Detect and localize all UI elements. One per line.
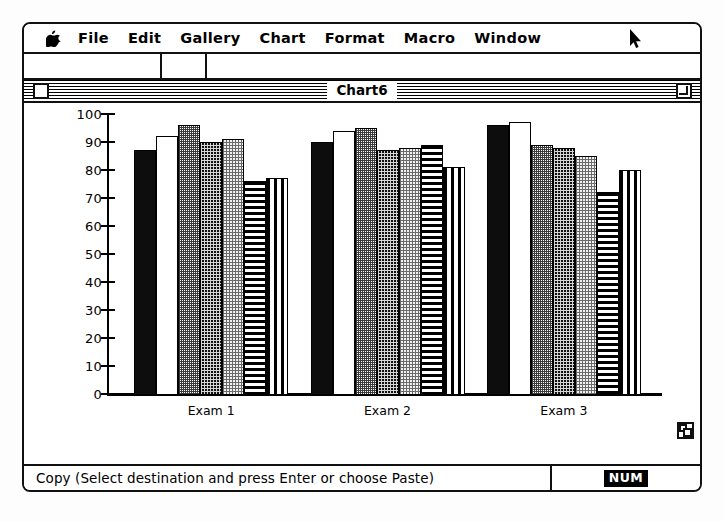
menu-item-edit[interactable]: Edit xyxy=(128,30,161,46)
y-axis-tick-label: 60 xyxy=(46,219,102,234)
x-axis-category-labels: Exam 1Exam 2Exam 3 xyxy=(109,403,662,425)
bar-group xyxy=(311,114,465,394)
y-axis-tick-label: 30 xyxy=(46,303,102,318)
bar[interactable] xyxy=(399,148,421,394)
toolbar-cell-2[interactable] xyxy=(162,54,207,78)
toolbar-cell-3[interactable] xyxy=(207,54,700,78)
apple-logo-icon[interactable] xyxy=(46,30,61,47)
bar[interactable] xyxy=(178,125,200,394)
bar[interactable] xyxy=(222,139,244,394)
bar[interactable] xyxy=(355,128,377,394)
status-right-panel: NUM xyxy=(552,466,700,490)
bar[interactable] xyxy=(487,125,509,394)
x-axis-category-label: Exam 1 xyxy=(188,403,235,418)
bar-group xyxy=(487,114,641,394)
y-axis-tick-label: 10 xyxy=(46,359,102,374)
menu-item-file[interactable]: File xyxy=(78,30,109,46)
plot-wrapper: 0102030405060708090100 Exam 1Exam 2Exam … xyxy=(24,103,700,443)
menu-item-format[interactable]: Format xyxy=(325,30,385,46)
bar[interactable] xyxy=(244,181,266,394)
chart-canvas: 0102030405060708090100 Exam 1Exam 2Exam … xyxy=(24,103,700,443)
menu-item-gallery[interactable]: Gallery xyxy=(180,30,240,46)
bar[interactable] xyxy=(619,170,641,394)
y-axis-tick-label: 90 xyxy=(46,135,102,150)
bar[interactable] xyxy=(509,122,531,394)
mouse-pointer-icon xyxy=(629,29,642,49)
toolbar-cell-1[interactable] xyxy=(24,54,162,78)
y-axis-tick-label: 100 xyxy=(46,107,102,122)
zoom-box-icon[interactable] xyxy=(676,83,692,99)
y-axis-tick-label: 80 xyxy=(46,163,102,178)
bar[interactable] xyxy=(156,136,178,394)
y-axis-tick-label: 50 xyxy=(46,247,102,262)
bar[interactable] xyxy=(421,145,443,394)
status-message: Copy (Select destination and press Enter… xyxy=(24,470,550,486)
y-axis-labels: 0102030405060708090100 xyxy=(46,103,102,384)
bar[interactable] xyxy=(443,167,465,394)
window-title: Chart6 xyxy=(327,82,396,99)
y-axis-tick-label: 0 xyxy=(46,387,102,402)
menu-item-macro[interactable]: Macro xyxy=(404,30,455,46)
x-axis-category-label: Exam 3 xyxy=(540,403,587,418)
bar[interactable] xyxy=(575,156,597,394)
y-axis-tick-label: 70 xyxy=(46,191,102,206)
bar[interactable] xyxy=(311,142,333,394)
grow-box-icon[interactable] xyxy=(677,422,694,439)
bar[interactable] xyxy=(134,150,156,394)
menu-item-window[interactable]: Window xyxy=(474,30,541,46)
bar[interactable] xyxy=(597,192,619,394)
menu-bar: File Edit Gallery Chart Format Macro Win… xyxy=(24,24,700,54)
bar[interactable] xyxy=(553,148,575,394)
bar[interactable] xyxy=(200,142,222,394)
bar[interactable] xyxy=(333,131,355,394)
y-axis-tick-label: 40 xyxy=(46,275,102,290)
toolbar-strip xyxy=(24,54,700,80)
bar[interactable] xyxy=(531,145,553,394)
status-bar: Copy (Select destination and press Enter… xyxy=(24,464,700,490)
menu-item-chart[interactable]: Chart xyxy=(259,30,305,46)
y-axis-tick-label: 20 xyxy=(46,331,102,346)
x-axis-category-label: Exam 2 xyxy=(364,403,411,418)
bars-plot-area xyxy=(109,114,662,394)
bar-group xyxy=(134,114,288,394)
bar[interactable] xyxy=(377,150,399,394)
close-box-icon[interactable] xyxy=(33,83,49,99)
screen: File Edit Gallery Chart Format Macro Win… xyxy=(0,0,724,521)
bar[interactable] xyxy=(266,178,288,394)
window-title-bar[interactable]: Chart6 xyxy=(24,80,700,103)
chart-window: File Edit Gallery Chart Format Macro Win… xyxy=(22,22,702,492)
num-lock-indicator: NUM xyxy=(604,470,649,487)
